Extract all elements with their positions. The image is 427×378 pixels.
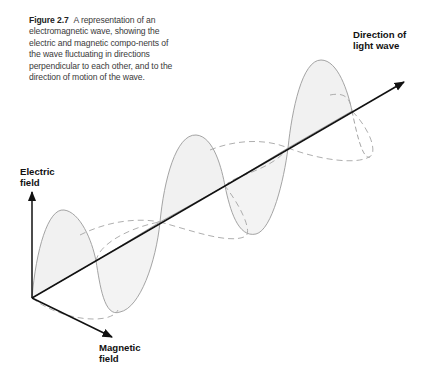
electric-label-line1: Electric bbox=[20, 167, 55, 178]
magnetic-segment-4b bbox=[210, 142, 288, 151]
direction-label: Direction of light wave bbox=[353, 30, 406, 51]
electric-lobe-2 bbox=[96, 222, 160, 313]
electric-lobe-1 bbox=[32, 210, 96, 298]
direction-label-line1: Direction of bbox=[353, 30, 406, 41]
electromagnetic-wave-diagram bbox=[0, 0, 427, 378]
electric-field-label: Electric field bbox=[20, 167, 55, 188]
electric-lobe-4 bbox=[225, 148, 288, 234]
direction-of-light-axis bbox=[32, 82, 404, 298]
magnetic-field-label: Magnetic field bbox=[99, 343, 141, 364]
magnetic-label-line1: Magnetic bbox=[99, 343, 141, 354]
magnetic-label-line2: field bbox=[99, 354, 141, 365]
electric-field-wave bbox=[32, 60, 370, 313]
direction-label-line2: light wave bbox=[353, 41, 406, 52]
electric-lobe-5 bbox=[288, 60, 352, 148]
electric-lobe-6 bbox=[352, 111, 370, 157]
electric-label-line2: field bbox=[20, 178, 55, 189]
magnetic-field-axis bbox=[32, 298, 112, 337]
